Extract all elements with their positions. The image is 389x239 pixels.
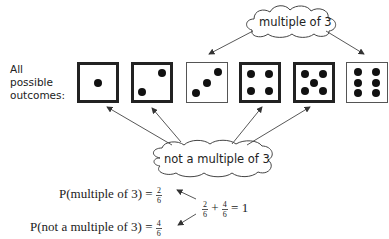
top-cloud-label: multiple of 3 bbox=[259, 15, 332, 29]
p-not-multiple-equation: P(not a multiple of 3) = 4 6 bbox=[30, 219, 162, 238]
pip bbox=[94, 79, 102, 87]
p-not-label: P(not a multiple of 3) = bbox=[30, 219, 153, 234]
denominator: 6 bbox=[157, 229, 161, 238]
pip bbox=[247, 87, 255, 95]
pip bbox=[301, 87, 309, 95]
pip bbox=[372, 89, 380, 97]
pip bbox=[372, 68, 380, 76]
label-line-2: possible bbox=[10, 76, 65, 89]
pip bbox=[192, 89, 200, 97]
pip bbox=[247, 70, 255, 78]
die-3 bbox=[186, 62, 228, 103]
die-1 bbox=[77, 62, 119, 103]
p-multiple-fraction: 2 6 bbox=[156, 186, 162, 205]
pip bbox=[138, 88, 146, 96]
die-4 bbox=[239, 62, 281, 103]
denominator: 6 bbox=[223, 210, 227, 219]
denominator: 6 bbox=[157, 196, 161, 205]
pip bbox=[354, 89, 362, 97]
pip bbox=[214, 68, 222, 76]
die-6 bbox=[346, 62, 388, 103]
all-outcomes-label: All possible outcomes: bbox=[10, 63, 65, 102]
sum-fraction-a: 2 6 bbox=[202, 200, 208, 219]
numerator: 2 bbox=[156, 186, 162, 196]
pip bbox=[265, 70, 273, 78]
pip bbox=[310, 79, 318, 87]
p-multiple-equation: P(multiple of 3) = 2 6 bbox=[59, 186, 162, 205]
pip bbox=[301, 70, 309, 78]
pip bbox=[203, 79, 211, 87]
plus-sign: + bbox=[211, 200, 218, 215]
sum-equation: 2 6 + 4 6 = 1 bbox=[202, 200, 248, 219]
pip bbox=[265, 87, 273, 95]
pip bbox=[354, 79, 362, 87]
pip bbox=[372, 79, 380, 87]
numerator: 4 bbox=[156, 219, 162, 229]
equals-one: = 1 bbox=[231, 200, 248, 215]
bottom-cloud-label: not a multiple of 3 bbox=[164, 152, 270, 166]
numerator: 2 bbox=[202, 200, 208, 210]
pip bbox=[158, 69, 166, 77]
numerator: 4 bbox=[222, 200, 228, 210]
sum-fraction-b: 4 6 bbox=[222, 200, 228, 219]
die-5 bbox=[293, 62, 335, 103]
p-multiple-label: P(multiple of 3) = bbox=[59, 186, 153, 201]
p-not-fraction: 4 6 bbox=[156, 219, 162, 238]
pip bbox=[319, 70, 327, 78]
pip bbox=[319, 87, 327, 95]
die-2 bbox=[131, 62, 173, 103]
label-line-3: outcomes: bbox=[10, 89, 65, 102]
pip bbox=[354, 68, 362, 76]
label-line-1: All bbox=[10, 63, 65, 76]
denominator: 6 bbox=[203, 210, 207, 219]
